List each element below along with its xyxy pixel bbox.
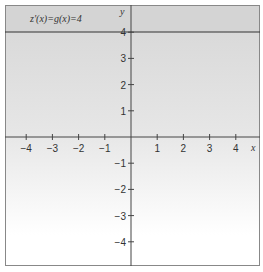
shaded-region <box>5 5 260 235</box>
y-tick-label: −2 <box>115 184 127 195</box>
y-axis-label: y <box>119 6 125 17</box>
x-tick-label: −3 <box>47 143 59 154</box>
x-tick-label: 2 <box>181 143 187 154</box>
y-tick-label: −3 <box>115 211 127 222</box>
y-tick-label: 2 <box>120 80 126 91</box>
x-tick-label: 3 <box>207 143 213 154</box>
x-tick-label: 4 <box>233 143 239 154</box>
y-tick-label: −4 <box>115 237 127 248</box>
y-tick-label: −1 <box>115 158 127 169</box>
function-plot: −4−3−2−11234 4321−1−2−3−4 z′(x)=g(x)=4 x… <box>0 0 263 272</box>
x-tick-label: 1 <box>154 143 160 154</box>
y-tick-label: 1 <box>120 106 126 117</box>
equation-label: z′(x)=g(x)=4 <box>29 13 82 25</box>
x-axis-label: x <box>250 142 256 153</box>
y-tick-label: 3 <box>120 53 126 64</box>
x-tick-label: −4 <box>20 143 32 154</box>
x-tick-label: −2 <box>73 143 85 154</box>
x-tick-label: −1 <box>99 143 111 154</box>
y-tick-label: 4 <box>120 27 126 38</box>
